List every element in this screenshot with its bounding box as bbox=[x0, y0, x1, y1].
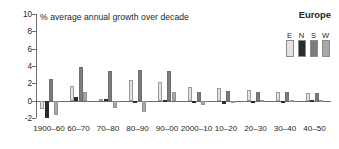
x-axis-tick-label: 20–30 bbox=[244, 124, 267, 133]
bar-s bbox=[285, 92, 289, 101]
bar-n bbox=[251, 101, 255, 104]
y-axis-tick bbox=[32, 49, 36, 50]
bar-e bbox=[217, 88, 221, 101]
x-axis-tick-label: 2000–10 bbox=[181, 124, 213, 133]
bar-group bbox=[306, 14, 324, 118]
bar-w bbox=[201, 101, 205, 105]
x-axis-tick-label: 60–70 bbox=[67, 124, 90, 133]
plot-area bbox=[36, 14, 331, 118]
bar-e bbox=[158, 82, 162, 101]
bar-n bbox=[281, 101, 285, 103]
y-axis-tick bbox=[32, 66, 36, 67]
bar-s bbox=[315, 93, 319, 100]
bar-e bbox=[306, 93, 310, 100]
bar-s bbox=[226, 91, 230, 101]
bar-group bbox=[129, 14, 147, 118]
bar-e bbox=[99, 99, 103, 101]
bar-n bbox=[163, 100, 167, 102]
bar-group bbox=[276, 14, 294, 118]
x-axis-tick-label: 30–40 bbox=[274, 124, 297, 133]
bar-n bbox=[45, 101, 49, 118]
x-axis-tick-label: 10–20 bbox=[215, 124, 238, 133]
x-axis-tick-label: 80–90 bbox=[126, 124, 149, 133]
bar-group bbox=[217, 14, 235, 118]
bar-n bbox=[74, 97, 78, 101]
bar-e bbox=[40, 101, 44, 110]
bar-w bbox=[260, 100, 264, 102]
x-axis-tick-label: 40–50 bbox=[303, 124, 326, 133]
bar-s bbox=[138, 70, 142, 100]
bar-e bbox=[188, 87, 192, 101]
bar-s bbox=[49, 79, 53, 101]
y-axis-tick bbox=[32, 101, 36, 102]
bar-w bbox=[54, 101, 58, 116]
y-axis-tick-label: -2 bbox=[25, 114, 32, 123]
bar-group bbox=[188, 14, 206, 118]
y-axis-tick-label: 10 bbox=[23, 10, 32, 19]
growth-bar-chart: % average annual growth over decade Euro… bbox=[0, 0, 339, 149]
bar-w bbox=[83, 92, 87, 101]
bar-n bbox=[192, 101, 196, 103]
x-axis-tick-label: 70–80 bbox=[97, 124, 120, 133]
bar-w bbox=[142, 101, 146, 112]
bar-w bbox=[290, 100, 294, 102]
x-axis-labels: 1900–6060–7070–8080–9090–002000–1010–202… bbox=[36, 124, 331, 138]
bar-group bbox=[40, 14, 58, 118]
bar-w bbox=[172, 92, 176, 101]
y-axis-tick bbox=[32, 118, 36, 119]
bar-e bbox=[129, 80, 133, 101]
bar-w bbox=[113, 101, 117, 109]
y-axis-tick bbox=[32, 83, 36, 84]
y-axis-line bbox=[36, 14, 37, 118]
bar-w bbox=[231, 101, 235, 103]
bar-w bbox=[319, 100, 323, 102]
bar-s bbox=[197, 92, 201, 101]
bar-e bbox=[247, 90, 251, 100]
x-axis-tick-label: 90–00 bbox=[156, 124, 179, 133]
y-axis-labels: 1086420-2 bbox=[10, 14, 32, 118]
bar-n bbox=[104, 99, 108, 101]
bar-s bbox=[79, 67, 83, 100]
bar-e bbox=[276, 92, 280, 101]
bar-s bbox=[108, 71, 112, 100]
bar-group bbox=[99, 14, 117, 118]
bar-group bbox=[247, 14, 265, 118]
bar-e bbox=[70, 86, 74, 101]
bar-s bbox=[256, 92, 260, 101]
bar-n bbox=[310, 100, 314, 102]
x-axis-tick-label: 1900–60 bbox=[33, 124, 65, 133]
bar-group bbox=[70, 14, 88, 118]
y-axis-tick bbox=[32, 14, 36, 15]
bar-n bbox=[133, 101, 137, 103]
bar-n bbox=[222, 101, 226, 104]
bar-group bbox=[158, 14, 176, 118]
y-axis-tick bbox=[32, 31, 36, 32]
bar-s bbox=[167, 71, 171, 100]
